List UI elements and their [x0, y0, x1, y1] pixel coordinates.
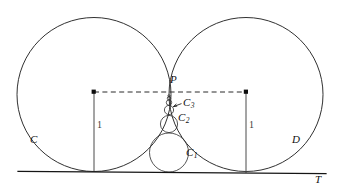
label-circle-C2: C2: [178, 112, 189, 123]
label-circle-C3-sub: 3: [191, 101, 195, 110]
label-circle-C2-sub: 2: [186, 116, 190, 125]
label-circle-C1-base: C: [186, 146, 193, 158]
geometry-figure: C D T P C1 C2 C3 1 1: [0, 0, 338, 194]
label-circle-C3-base: C: [183, 96, 190, 108]
label-point-P: P: [170, 74, 177, 85]
label-circle-C2-base: C: [178, 111, 185, 123]
label-tangent-line-T: T: [315, 174, 321, 185]
label-circle-C3: C3: [183, 97, 194, 108]
center-dot-right: [244, 90, 248, 94]
label-radius-right: 1: [249, 120, 254, 130]
center-dot-left: [92, 90, 96, 94]
label-circle-C: C: [30, 134, 37, 145]
circle-C1: [150, 133, 189, 172]
figure-canvas: [0, 0, 338, 194]
label-circle-D: D: [292, 134, 300, 145]
label-radius-left: 1: [97, 120, 102, 130]
label-circle-C1-sub: 1: [194, 151, 198, 160]
label-circle-C1: C1: [186, 147, 197, 158]
